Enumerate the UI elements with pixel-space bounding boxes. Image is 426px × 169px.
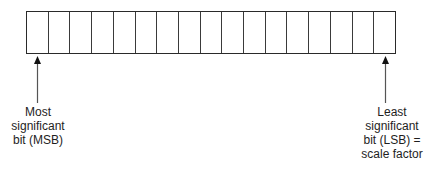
- msb-label-line: significant: [0, 119, 76, 133]
- msb-arrow: [34, 56, 41, 103]
- lsb-arrow: [382, 56, 389, 103]
- msb-label: Most significant bit (MSB): [0, 105, 76, 147]
- lsb-label: Least significant bit (LSB) = scale fact…: [356, 105, 426, 161]
- lsb-label-line: bit (LSB) =: [356, 133, 426, 147]
- msb-label-line: Most: [0, 105, 76, 119]
- lsb-label-line: significant: [356, 119, 426, 133]
- lsb-label-line: scale factor: [356, 147, 426, 161]
- lsb-label-line: Least: [356, 105, 426, 119]
- msb-label-line: bit (MSB): [0, 133, 76, 147]
